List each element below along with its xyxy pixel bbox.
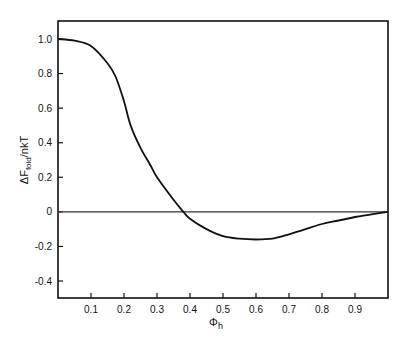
axis-ticks: 0.10.20.30.40.50.60.70.80.91.00.80.60.40… — [35, 34, 363, 316]
series-group — [58, 39, 388, 240]
y-tick-label: -0.4 — [35, 276, 53, 287]
x-tick-label: 0.2 — [117, 304, 131, 315]
x-tick-label: 0.4 — [183, 304, 197, 315]
x-axis-title-sub: h — [218, 321, 223, 331]
x-tick-label: 0.5 — [216, 304, 230, 315]
x-tick-label: 0.3 — [150, 304, 164, 315]
x-axis-title-main: Φ — [209, 316, 218, 328]
y-tick-label: 0.4 — [38, 137, 52, 148]
x-tick-label: 0.9 — [348, 304, 362, 315]
chart: 0.10.20.30.40.50.60.70.80.91.00.80.60.40… — [0, 0, 408, 344]
y-axis-title-suffix: /nkT — [18, 136, 30, 158]
series-line — [58, 39, 388, 240]
y-axis-title-prefix: ΔF — [18, 170, 30, 184]
y-tick-label: 0 — [46, 206, 52, 217]
x-tick-label: 0.7 — [282, 304, 296, 315]
y-tick-label: 0.2 — [38, 172, 52, 183]
x-tick-label: 0.8 — [315, 304, 329, 315]
y-tick-label: 0.8 — [38, 68, 52, 79]
x-axis-title: Φh — [209, 316, 223, 331]
y-tick-label: 1.0 — [38, 34, 52, 45]
x-tick-label: 0.6 — [249, 304, 263, 315]
y-tick-label: -0.2 — [35, 241, 53, 252]
x-tick-label: 0.1 — [84, 304, 98, 315]
y-axis-title: ΔFfold/nkT — [18, 136, 33, 185]
y-axis-title-sub: fold — [24, 157, 33, 170]
y-tick-label: 0.6 — [38, 103, 52, 114]
